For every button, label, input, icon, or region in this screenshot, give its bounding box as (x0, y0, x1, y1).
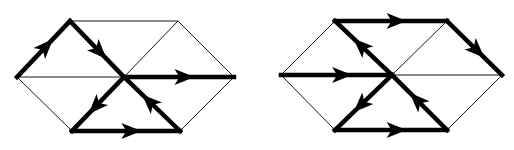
right-hexagon-diagram (281, 13, 502, 138)
thin-edge-R-BR (180, 77, 234, 131)
thin-edge-C-TR (392, 21, 447, 75)
hexagon-path-diagrams (0, 0, 514, 150)
left-hexagon-diagram (17, 21, 234, 139)
thin-edge-R-BR (447, 75, 502, 130)
diagram-stage (0, 0, 514, 150)
thin-edge-L-TL (281, 21, 335, 75)
thin-edge-TR-R (178, 21, 234, 77)
thin-edge-BL-L (17, 77, 72, 131)
thin-edge-C-TR (124, 21, 178, 77)
thin-edge-BL-L (281, 75, 335, 130)
